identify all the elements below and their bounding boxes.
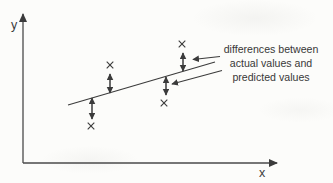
plot-layer [68,41,222,130]
annotation-label: differences between actual values and pr… [224,43,319,83]
annotation-line-1: differences between [224,43,319,55]
annotation-pointer-arrow [193,57,220,60]
x-axis-label: x [259,166,266,180]
regression-residuals-diagram: y x differences between actual values an… [0,0,333,183]
annotation-line-3: predicted values [232,71,309,83]
annotation-line-2: actual values and [230,57,313,69]
figure-canvas: y x differences between actual values an… [0,0,333,183]
axes: y x [11,14,277,180]
regression-line [68,62,215,105]
y-axis-label: y [11,18,18,32]
